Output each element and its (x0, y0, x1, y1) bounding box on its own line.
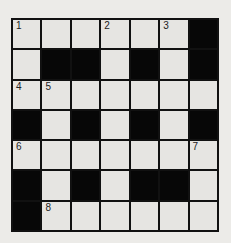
crossword-cell[interactable] (101, 111, 128, 139)
crossword-cell[interactable] (190, 171, 217, 199)
crossword-cell[interactable] (160, 50, 187, 78)
black-square (131, 171, 158, 199)
crossword-grid: 12345678 (11, 18, 219, 232)
black-square (13, 202, 40, 230)
crossword-cell[interactable]: 3 (160, 20, 187, 48)
crossword-cell[interactable] (160, 111, 187, 139)
crossword-cell[interactable] (131, 141, 158, 169)
crossword-cell[interactable] (101, 202, 128, 230)
black-square (42, 50, 69, 78)
crossword-cell[interactable] (190, 202, 217, 230)
clue-number: 7 (193, 142, 199, 152)
crossword-cell[interactable] (72, 20, 99, 48)
black-square (190, 50, 217, 78)
black-square (13, 111, 40, 139)
clue-number: 6 (16, 142, 22, 152)
black-square (72, 171, 99, 199)
crossword-cell[interactable]: 6 (13, 141, 40, 169)
crossword-cell[interactable] (42, 20, 69, 48)
crossword-cell[interactable] (72, 141, 99, 169)
crossword-cell[interactable] (160, 81, 187, 109)
black-square (131, 111, 158, 139)
crossword-cell[interactable] (42, 111, 69, 139)
crossword-cell[interactable] (72, 81, 99, 109)
clue-number: 2 (104, 21, 110, 31)
black-square (72, 50, 99, 78)
crossword-cell[interactable] (160, 141, 187, 169)
crossword-cell[interactable] (131, 20, 158, 48)
clue-number: 3 (163, 21, 169, 31)
crossword-cell[interactable] (131, 202, 158, 230)
black-square (72, 111, 99, 139)
crossword-cell[interactable] (101, 50, 128, 78)
crossword-cell[interactable] (131, 81, 158, 109)
crossword-cell[interactable]: 4 (13, 81, 40, 109)
black-square (160, 171, 187, 199)
crossword-cell[interactable] (101, 81, 128, 109)
crossword-cell[interactable] (101, 171, 128, 199)
crossword-cell[interactable] (101, 141, 128, 169)
crossword-cell[interactable] (190, 81, 217, 109)
crossword-cell[interactable] (160, 202, 187, 230)
black-square (131, 50, 158, 78)
crossword-cell[interactable] (42, 141, 69, 169)
crossword-cell[interactable]: 2 (101, 20, 128, 48)
black-square (190, 111, 217, 139)
black-square (190, 20, 217, 48)
crossword-cell[interactable]: 5 (42, 81, 69, 109)
crossword-cell[interactable]: 7 (190, 141, 217, 169)
crossword-cell[interactable]: 8 (42, 202, 69, 230)
black-square (13, 171, 40, 199)
clue-number: 4 (16, 82, 22, 92)
clue-number: 1 (16, 21, 22, 31)
clue-number: 8 (45, 203, 51, 213)
crossword-cell[interactable] (72, 202, 99, 230)
crossword-cell[interactable] (42, 171, 69, 199)
crossword-cell[interactable] (13, 50, 40, 78)
crossword-cell[interactable]: 1 (13, 20, 40, 48)
clue-number: 5 (45, 82, 51, 92)
